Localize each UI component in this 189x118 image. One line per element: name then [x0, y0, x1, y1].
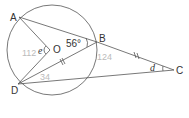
- point-label-B: B: [99, 33, 106, 44]
- point-label-D: D: [11, 85, 18, 96]
- pencil-note-d: 34: [40, 72, 50, 82]
- point-label-O: O: [53, 44, 61, 55]
- angle-arc-e: [44, 46, 46, 54]
- angle-label-56: 56°: [66, 38, 81, 49]
- point-label-A: A: [10, 12, 17, 23]
- angle-label-e: e: [38, 45, 43, 56]
- geometry-diagram: 112 124 34 A B C D O e 56° d: [0, 0, 189, 118]
- angle-arc-56: [86, 38, 88, 47]
- point-label-C: C: [176, 65, 183, 76]
- tick-marks-BC: [134, 52, 139, 59]
- pencil-note-e: 112: [22, 48, 36, 58]
- pencil-note-b: 124: [97, 52, 112, 62]
